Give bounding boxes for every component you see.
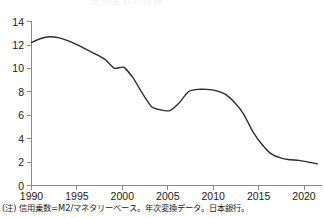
y-tick-label-12: 12 (12, 39, 24, 51)
y-tick-label-2: 2 (18, 156, 24, 168)
chart-figure: 信用乗数の推移 14 12 10 8 6 4 2 0 (0, 0, 324, 218)
y-tick-label-6: 6 (18, 109, 24, 121)
x-tick-label-1990: 1990 (20, 190, 44, 201)
x-tick-label-2015: 2015 (247, 190, 271, 201)
chart-note: (注) 信用乗数=M2/マネタリーベース。年次変換データ。日本銀行。 (2, 203, 249, 214)
y-tick-label-4: 4 (18, 133, 24, 145)
x-tick-label-1995: 1995 (65, 190, 89, 201)
series-line-credit-multiplier (32, 37, 318, 164)
x-tick-label-2020: 2020 (292, 190, 316, 201)
x-tick-label-2005: 2005 (156, 190, 180, 201)
y-tick-label-8: 8 (18, 86, 24, 98)
line-chart-plot: 14 12 10 8 6 4 2 0 1990 1995 2000 2005 2… (0, 5, 324, 201)
y-tick-label-14: 14 (12, 16, 24, 28)
y-axis-ticks (27, 22, 32, 186)
x-tick-label-2010: 2010 (202, 190, 226, 201)
x-tick-label-2000: 2000 (111, 190, 135, 201)
y-tick-label-10: 10 (12, 62, 24, 74)
